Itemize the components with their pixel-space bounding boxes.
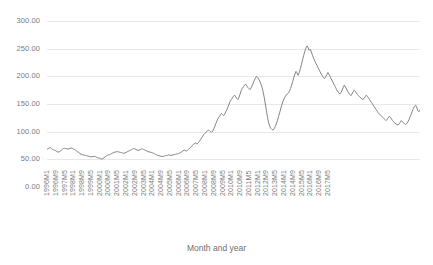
x-tick-label: 2013M5: [271, 170, 278, 196]
x-tick-label: 2014M1: [280, 170, 287, 196]
x-tick-label: 1996M1: [43, 170, 50, 196]
x-tick-label: 1998M9: [78, 170, 85, 196]
x-tick-label: 2010M9: [236, 170, 243, 196]
x-tick-label: 1999M5: [87, 170, 94, 196]
x-tick-label: 2010M1: [227, 170, 234, 196]
x-tick-label: 2017M5: [324, 170, 331, 196]
y-tick-label: 0.00: [0, 182, 40, 191]
x-tick-label: 1998M1: [69, 170, 76, 196]
x-tick-label: 2015M5: [298, 170, 305, 196]
x-tick-label: 2000M1: [96, 170, 103, 196]
x-tick-label: 2014M9: [289, 170, 296, 196]
x-tick-label: 2004M1: [148, 170, 155, 196]
x-tick-label: 2002M9: [131, 170, 138, 196]
x-tick-label: 2006M1: [175, 170, 182, 196]
x-tick-label: 2000M9: [104, 170, 111, 196]
x-tick-label: 2012M1: [254, 170, 261, 196]
plot-area: [47, 21, 420, 187]
x-tick-label: 1997M5: [61, 170, 68, 196]
x-tick-label: 1996M9: [52, 170, 59, 196]
x-tick-label: 2002M1: [122, 170, 129, 196]
gridlines: [47, 22, 420, 160]
x-tick-label: 2016M1: [306, 170, 313, 196]
x-axis-title: Month and year: [0, 243, 433, 253]
x-tick-label: 2009M5: [219, 170, 226, 196]
y-tick-label: 150.00: [0, 99, 40, 108]
y-tick-label: 200.00: [0, 71, 40, 80]
y-tick-label: 100.00: [0, 127, 40, 136]
x-tick-label: 2012M9: [262, 170, 269, 196]
series-line-price-index: [47, 46, 420, 159]
x-tick-label: 2011M5: [245, 171, 252, 196]
y-tick-label: 250.00: [0, 44, 40, 53]
x-tick-label: 2007M5: [192, 170, 199, 196]
y-tick-label: 50.00: [0, 154, 40, 163]
x-tick-label: 2004M9: [157, 170, 164, 196]
x-tick-label: 2008M1: [201, 170, 208, 196]
line-chart: Month and year 0.0050.00100.00150.00200.…: [0, 0, 433, 265]
plot-svg: [47, 21, 420, 187]
x-tick-label: 2006M9: [183, 170, 190, 196]
x-tick-label: 2008M9: [210, 170, 217, 196]
x-tick-label: 2001M5: [113, 170, 120, 196]
x-tick-label: 2003M5: [140, 170, 147, 196]
x-tick-label: 2005M5: [166, 170, 173, 196]
x-tick-label: 2016M9: [315, 170, 322, 196]
y-tick-label: 300.00: [0, 16, 40, 25]
